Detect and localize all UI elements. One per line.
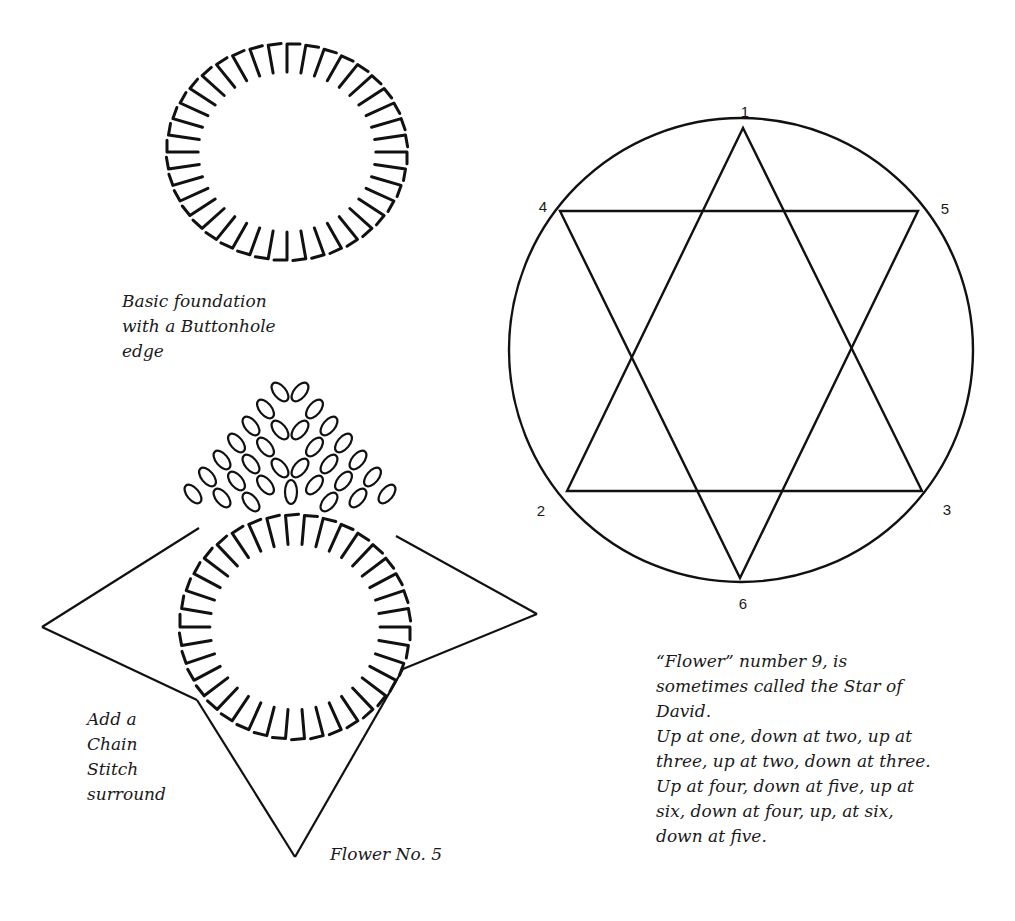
buttonhole-stitch bbox=[180, 614, 210, 627]
chain-stitch-loop bbox=[303, 473, 326, 498]
chain-stitch-loop bbox=[332, 431, 355, 456]
buttonhole-stitch bbox=[372, 119, 406, 130]
chain-stitch-loop bbox=[225, 469, 248, 494]
buttonhole-stitch bbox=[342, 696, 358, 727]
upward-triangle bbox=[567, 128, 922, 491]
buttonhole-stitch bbox=[274, 232, 287, 260]
caption-line: edge bbox=[122, 339, 276, 364]
chain-stitch-loop bbox=[210, 486, 233, 511]
buttonhole-stitch bbox=[379, 609, 411, 622]
chain-stitch-loop bbox=[288, 456, 311, 481]
buttonhole-stitch bbox=[196, 678, 228, 696]
vertex-label-5: 5 bbox=[941, 200, 949, 217]
chain-stitch-loop bbox=[268, 418, 291, 443]
buttonhole-stitch bbox=[268, 44, 281, 74]
star-outline-edge bbox=[42, 528, 199, 627]
star-of-david-caption: “Flower” number 9, is sometimes called t… bbox=[656, 649, 931, 849]
chain-stitch-loop bbox=[303, 397, 326, 422]
chain-stitch-caption: Add a Chain Stitch surround bbox=[87, 707, 166, 807]
buttonhole-stitch bbox=[273, 710, 289, 739]
buttonhole-stitch bbox=[217, 536, 237, 566]
star-outline-edge bbox=[295, 669, 403, 857]
caption-line: Add a bbox=[87, 707, 166, 732]
buttonhole-stitch bbox=[370, 574, 403, 588]
chain-stitch-loop bbox=[346, 486, 369, 511]
buttonhole-stitch bbox=[359, 89, 392, 106]
buttonhole-stitch bbox=[233, 51, 247, 81]
chain-stitch-loop bbox=[239, 490, 262, 515]
chain-stitch-loop bbox=[317, 452, 340, 477]
buttonhole-stitch bbox=[362, 558, 394, 576]
caption-line: Up at one, down at two, up at bbox=[656, 724, 931, 749]
chain-stitch-loop bbox=[317, 490, 340, 515]
buttonhole-stitch bbox=[293, 231, 306, 261]
chain-stitch-loop bbox=[361, 465, 384, 490]
chain-stitch-loop bbox=[288, 380, 311, 405]
chain-stitch-loop bbox=[288, 418, 311, 443]
chain-stitch-loop bbox=[254, 397, 277, 422]
buttonhole-stitch bbox=[166, 157, 199, 169]
buttonhole-stitch bbox=[353, 688, 373, 718]
chain-stitch-loop bbox=[317, 414, 340, 439]
star-outline-edge bbox=[42, 627, 197, 700]
buttonhole-stitch bbox=[376, 152, 407, 164]
chain-stitch-loop bbox=[346, 448, 369, 473]
foundation-caption: Basic foundation with a Buttonhole edge bbox=[122, 289, 276, 364]
buttonhole-stitch bbox=[302, 515, 318, 544]
caption-line: Up at four, down at five, up at bbox=[656, 774, 931, 799]
caption-line: down at five. bbox=[656, 824, 931, 849]
buttonhole-stitch bbox=[327, 223, 341, 253]
buttonhole-stitch bbox=[232, 526, 248, 557]
buttonhole-stitch bbox=[380, 627, 410, 640]
buttonhole-stitch bbox=[267, 515, 280, 546]
chain-stitch-loop bbox=[254, 473, 277, 498]
title-text: Flower No. 5 bbox=[330, 842, 442, 867]
vertex-label-3: 3 bbox=[943, 501, 951, 518]
chain-stitch-loop bbox=[225, 431, 248, 456]
star-outline-edge bbox=[403, 614, 537, 669]
star-outline-edge bbox=[396, 536, 537, 614]
buttonhole-stitch bbox=[339, 217, 357, 247]
chain-stitch-loop bbox=[332, 469, 355, 494]
chain-stitch-loop bbox=[375, 482, 398, 507]
chain-stitch-loop bbox=[181, 482, 204, 507]
star-of-david-figure bbox=[509, 118, 973, 582]
vertex-label-4: 4 bbox=[539, 198, 547, 215]
vertex-label-6: 6 bbox=[739, 595, 747, 612]
buttonhole-stitch bbox=[169, 174, 203, 185]
buttonhole-stitch bbox=[376, 591, 409, 603]
chain-stitch-loop bbox=[254, 435, 277, 460]
caption-line: “Flower” number 9, is bbox=[656, 649, 931, 674]
caption-line: Chain bbox=[87, 732, 166, 757]
buttonhole-stitch bbox=[182, 199, 215, 216]
buttonhole-stitch bbox=[250, 46, 262, 76]
flower-no-5-title: Flower No. 5 bbox=[330, 842, 442, 867]
caption-line: David. bbox=[656, 699, 931, 724]
caption-line: Basic foundation bbox=[122, 289, 276, 314]
chain-stitch-loop bbox=[268, 380, 291, 405]
vertex-label-2: 2 bbox=[537, 502, 545, 519]
buttonhole-stitch bbox=[188, 666, 221, 680]
chain-stitch-loop bbox=[196, 465, 219, 490]
chain-stitch-loop bbox=[303, 435, 326, 460]
buttonhole-stitch bbox=[286, 514, 299, 544]
buttonhole-stitch bbox=[366, 103, 400, 116]
buttonhole-stitch bbox=[312, 228, 324, 258]
buttonhole-stitch bbox=[287, 44, 300, 72]
buttonhole-stitch bbox=[182, 651, 215, 663]
chain-stitch-loop bbox=[239, 452, 262, 477]
buttonhole-stitch bbox=[292, 710, 305, 740]
buttonhole-stitch bbox=[375, 135, 408, 147]
chain-stitch-loop bbox=[239, 414, 262, 439]
chain-stitch-loop bbox=[268, 456, 291, 481]
caption-line: six, down at four, up, at six, bbox=[656, 799, 931, 824]
caption-line: with a Buttonhole bbox=[122, 314, 276, 339]
buttonhole-stitch bbox=[167, 140, 198, 152]
buttonhole-stitch bbox=[329, 703, 341, 735]
buttonhole-ring-figure bbox=[166, 44, 407, 261]
chain-stitch-loop bbox=[210, 448, 233, 473]
caption-line: Stitch bbox=[87, 757, 166, 782]
vertex-label-1: 1 bbox=[741, 103, 749, 120]
buttonhole-stitch bbox=[174, 188, 208, 201]
outer-circle bbox=[509, 118, 973, 582]
